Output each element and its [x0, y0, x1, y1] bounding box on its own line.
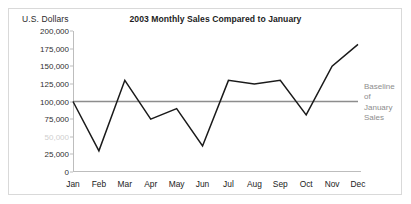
x-tick-label: May [169, 179, 185, 189]
y-tick-label: 150,000 [40, 62, 69, 71]
y-tick-label: 100,000 [40, 97, 69, 106]
baseline-annotation: BaselineofJanuarySales [364, 82, 408, 124]
chart-figure: U.S. Dollars 2003 Monthly Sales Compared… [0, 0, 411, 204]
y-tick-label: 0 [65, 168, 69, 177]
x-tick-label: Sep [273, 179, 288, 189]
baseline-annotation-line: January [364, 103, 408, 113]
series-layer [73, 31, 358, 172]
y-tick-label: 200,000 [40, 27, 69, 36]
x-tick-label: Jun [196, 179, 210, 189]
x-tick-label: Feb [92, 179, 106, 189]
x-tick-label: Mar [118, 179, 132, 189]
baseline-annotation-line: Baseline [364, 82, 408, 92]
y-tick-label: 125,000 [40, 79, 69, 88]
x-tick-label: Dec [351, 179, 366, 189]
y-tick-label: 75,000 [45, 115, 69, 124]
x-tick-label: Jan [66, 179, 80, 189]
y-tick-label: 50,000 [45, 132, 69, 141]
y-axis-title: U.S. Dollars [22, 14, 69, 24]
x-tick-label: Nov [325, 179, 340, 189]
x-tick-label: Apr [144, 179, 157, 189]
chart-title: 2003 Monthly Sales Compared to January [73, 14, 358, 24]
x-tick-label: Aug [247, 179, 262, 189]
x-tick-label: Jul [223, 179, 234, 189]
y-tick-label: 25,000 [45, 150, 69, 159]
sales-line [73, 44, 358, 150]
baseline-annotation-line: Sales [364, 113, 408, 123]
plot-area: 025,00050,00075,000100,000125,000150,000… [73, 31, 358, 172]
y-tick-label: 175,000 [40, 44, 69, 53]
x-tick-label: Oct [300, 179, 313, 189]
baseline-annotation-line: of [364, 92, 408, 102]
